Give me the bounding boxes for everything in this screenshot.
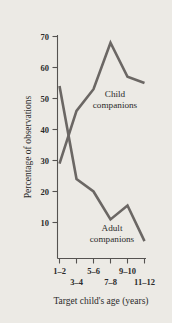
- x-tick-marks: [60, 259, 145, 264]
- line-chart-svg: 70 60 50 40 30 20 10 1–2 5–6 9–10 3–4 7–…: [0, 0, 172, 323]
- y-axis-title: Percentage of observations: [23, 96, 33, 199]
- x-tick-label-7-8: 7–8: [104, 277, 117, 287]
- x-tick-label-1-2: 1–2: [53, 266, 66, 276]
- y-tick-label-60: 60: [41, 63, 50, 73]
- y-tick-label-50: 50: [41, 94, 50, 104]
- y-tick-label-40: 40: [41, 125, 50, 135]
- x-tick-label-5-6: 5–6: [87, 266, 100, 276]
- y-tick-label-70: 70: [41, 32, 50, 42]
- annotation-adult-line2: companions: [90, 234, 135, 244]
- x-tick-label-11-12: 11–12: [134, 277, 155, 287]
- x-tick-label-9-10: 9–10: [119, 266, 136, 276]
- annotation-adult-line1: Adult: [102, 223, 123, 233]
- y-tick-label-20: 20: [41, 187, 50, 197]
- annotation-child-line2: companions: [93, 100, 138, 110]
- annotation-child-line1: Child: [105, 89, 126, 99]
- y-tick-label-10: 10: [41, 218, 50, 228]
- y-tick-label-30: 30: [41, 156, 50, 166]
- y-tick-marks: [53, 37, 58, 223]
- chart-figure: 70 60 50 40 30 20 10 1–2 5–6 9–10 3–4 7–…: [0, 0, 172, 323]
- x-tick-label-3-4: 3–4: [70, 277, 84, 287]
- x-axis-title: Target child's age (years): [53, 296, 148, 307]
